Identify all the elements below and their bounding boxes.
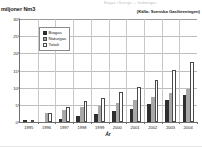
x-tick-mark [126,122,127,124]
legend-label: Biogas [49,30,62,35]
legend-label: Naturgas [49,36,67,41]
bar-totalt-1996 [48,113,52,122]
bar-totalt-2000 [119,92,123,122]
bar-group [147,19,158,122]
x-tick-mark [162,122,163,124]
x-tick-label-2004: 2004 [184,125,193,130]
y-tick-mark [18,19,20,20]
chart-figure: Biogas i Sverige — fordonsgas miljoner N… [0,0,202,147]
x-tick-label-1996: 1996 [42,125,51,130]
x-tick-mark [55,122,56,124]
x-tick-mark [38,122,39,124]
y-tick-label: 15 [13,68,18,73]
y-tick-label: 30 [13,17,18,22]
x-tick-label-2001: 2001 [130,125,139,130]
x-tick-mark [109,122,110,124]
legend-swatch-naturgas-icon [43,37,47,41]
legend-swatch-totalt-icon [43,43,47,47]
y-tick-mark [18,104,20,105]
x-tick-mark [197,122,198,124]
source-credit: (Källa: Svenska Gasföreningen) [137,9,200,14]
bar-totalt-2002 [155,80,159,122]
bar-group [183,19,194,122]
bar-biogas-1995 [23,120,27,122]
y-tick-label: 20 [13,51,18,56]
x-tick-label-1998: 1998 [77,125,86,130]
y-tick-label: 10 [13,85,18,90]
bar-group [76,19,87,122]
x-tick-label-2003: 2003 [166,125,175,130]
y-tick-mark [18,53,20,54]
bar-group [165,19,176,122]
y-tick-label: 25 [13,34,18,39]
x-axis-title: År [19,131,197,137]
bar-totalt-1995 [31,120,35,122]
y-tick-mark [18,122,20,123]
bar-group [130,19,141,122]
bar-totalt-1999 [101,98,105,122]
bar-group [112,19,123,122]
y-tick-label: 5 [16,102,18,107]
chart-legend: BiogasNaturgasTotalt [39,27,70,51]
x-tick-mark [144,122,145,124]
x-tick-label-1997: 1997 [60,125,69,130]
y-tick-mark [18,87,20,88]
x-tick-label-2002: 2002 [148,125,157,130]
y-tick-label: 0 [16,120,18,125]
x-tick-label-2000: 2000 [113,125,122,130]
legend-item-totalt: Totalt [43,42,67,48]
bar-totalt-2003 [172,70,176,122]
bar-totalt-1997 [66,107,70,122]
x-tick-label-1995: 1995 [24,125,33,130]
bar-group [94,19,105,122]
bar-group [23,19,34,122]
y-axis-unit-label: miljoner Nm3 [1,6,35,12]
legend-swatch-biogas-icon [43,31,47,35]
legend-label: Totalt [49,42,60,47]
bar-totalt-1998 [84,101,88,122]
x-tick-label-1999: 1999 [95,125,104,130]
clipped-header-text: Biogas i Sverige — fordonsgas [104,0,200,6]
bar-totalt-2001 [137,87,141,122]
x-tick-mark [73,122,74,124]
y-tick-mark [18,36,20,37]
bar-totalt-2004 [190,62,194,122]
x-tick-mark [179,122,180,124]
y-tick-mark [18,70,20,71]
x-tick-mark [91,122,92,124]
